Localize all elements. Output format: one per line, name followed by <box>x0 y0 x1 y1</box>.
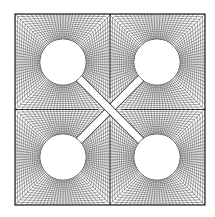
hole-bottom-left-fill <box>40 134 85 179</box>
mesh-canvas <box>0 0 215 217</box>
hole-top-left-fill <box>40 39 85 84</box>
hole-top-right-fill <box>134 39 179 84</box>
hole-bottom-right-fill <box>134 134 179 179</box>
